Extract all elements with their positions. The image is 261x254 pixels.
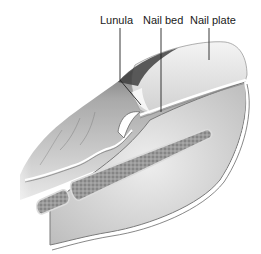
label-nail-bed: Nail bed bbox=[143, 14, 183, 26]
label-lunula: Lunula bbox=[100, 14, 133, 26]
label-nail-plate: Nail plate bbox=[190, 14, 236, 26]
fingertip-illustration bbox=[0, 0, 261, 254]
fingertip-diagram bbox=[0, 0, 261, 254]
